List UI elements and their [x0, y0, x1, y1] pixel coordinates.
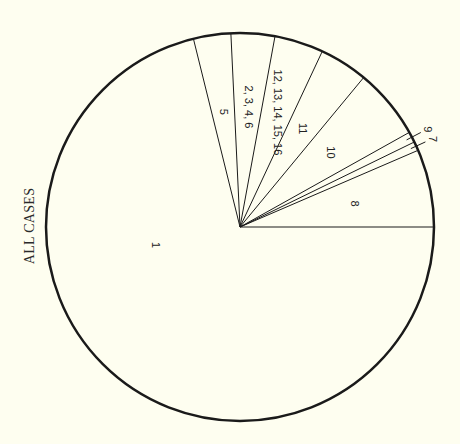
- pie-labels: 879101112, 13, 14, 15, 162, 3, 4, 651: [150, 70, 439, 248]
- slice-label: 1: [150, 242, 162, 248]
- slice-label: 9: [422, 126, 434, 132]
- slice-label: 10: [325, 146, 337, 158]
- slice-divider: [231, 33, 240, 227]
- slice-divider: [240, 150, 418, 227]
- pie-slices: [193, 33, 434, 227]
- slice-divider: [193, 39, 240, 227]
- slice-label: 11: [297, 123, 309, 134]
- slice-divider: [240, 78, 364, 227]
- slice-label: 7: [427, 136, 439, 142]
- slice-label: 12, 13, 14, 15, 16: [272, 70, 284, 156]
- slice-label: 5: [218, 109, 230, 115]
- slice-label: 2, 3, 4, 6: [243, 86, 255, 129]
- slice-divider: [240, 36, 275, 227]
- slice-label: 8: [349, 200, 361, 206]
- pie-chart: 879101112, 13, 14, 15, 162, 3, 4, 651: [0, 0, 460, 444]
